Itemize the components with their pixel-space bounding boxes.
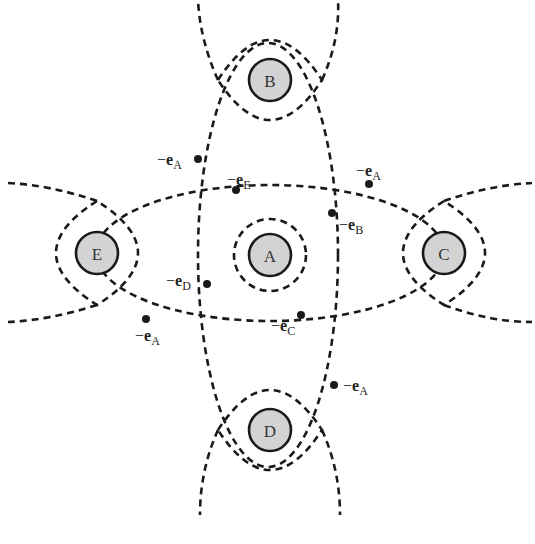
outer-arc-bottom-left	[200, 430, 218, 515]
label-ed: −eD	[166, 272, 191, 293]
point-ea-top	[194, 155, 202, 163]
point-eb	[328, 209, 336, 217]
outer-arc-top-left	[198, 0, 218, 80]
label-ea-top: −eA	[157, 151, 182, 172]
lattice-diagram: A B C D E −eA −eE −eA −eB −eD −eA −eC −e…	[0, 0, 535, 544]
label-eb: −eB	[339, 216, 363, 237]
label-ea-bottom: −eA	[343, 377, 368, 398]
node-a: A	[249, 234, 291, 276]
outer-arc-right-bottom	[444, 305, 532, 322]
node-e: E	[76, 232, 118, 274]
node-d: D	[249, 409, 291, 451]
node-c-label: C	[438, 245, 449, 264]
outer-arc-bottom-right	[322, 430, 340, 515]
outer-arc-left-bottom	[8, 305, 97, 322]
node-a-label: A	[264, 247, 277, 266]
node-c: C	[423, 232, 465, 274]
point-ec	[297, 311, 305, 319]
outer-arc-left-top	[8, 183, 97, 201]
outer-arc-top-right	[322, 0, 338, 80]
node-b-label: B	[264, 72, 275, 91]
node-b: B	[249, 59, 291, 101]
label-ea-left: −eA	[135, 327, 160, 348]
node-d-label: D	[264, 422, 276, 441]
point-ea-bottom	[330, 381, 338, 389]
point-ed	[203, 280, 211, 288]
outer-arc-right-top	[444, 183, 532, 201]
point-ea-left	[142, 315, 150, 323]
label-ea-right: −eA	[356, 162, 381, 183]
node-e-label: E	[92, 245, 102, 264]
label-ec: −eC	[271, 317, 295, 338]
